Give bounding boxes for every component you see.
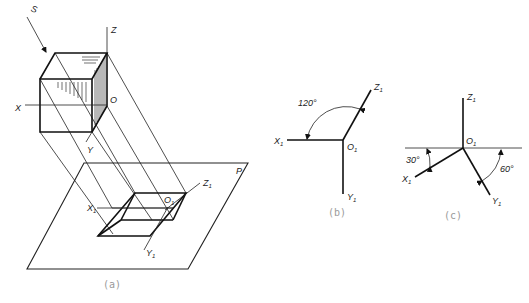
label-z: Z [110, 25, 117, 35]
panel-a: S Z X Y O X1 O1 Z1 Y1 P (a) [14, 4, 248, 290]
caption-b: (b) [328, 207, 346, 218]
axis-z1 [343, 90, 371, 140]
label-angle-60: 60° [500, 164, 514, 174]
label-x1: X1 [273, 136, 283, 147]
projection-plane-p [27, 163, 248, 269]
label-y1: Y1 [347, 192, 356, 203]
label-angle-30: 30° [406, 155, 420, 165]
projection-rays [40, 53, 186, 234]
label-z1: Z1 [202, 178, 212, 189]
caption-a: (a) [103, 279, 121, 290]
axis-y1 [463, 148, 490, 195]
label-y: Y [87, 145, 94, 155]
caption-c: (c) [444, 210, 462, 221]
label-o1: O1 [466, 136, 476, 147]
angle-arc-30 [427, 149, 430, 167]
label-x: X [14, 103, 22, 113]
projection-direction-arrow [27, 17, 46, 52]
cube [40, 53, 107, 132]
label-x1: X1 [401, 174, 411, 185]
panel-b: 120° X1 O1 Z1 Y1 (b) [273, 82, 383, 218]
label-y1: Y1 [492, 196, 501, 207]
label-x1: X1 [86, 203, 96, 214]
label-plane-p: P [236, 166, 242, 176]
angle-arc-60 [482, 150, 501, 181]
label-z1: Z1 [466, 92, 476, 103]
label-s: S [30, 4, 39, 15]
panel-c: 30° 60° X1 O1 Z1 Y1 (c) [401, 92, 522, 221]
projection-diagram: S Z X Y O X1 O1 Z1 Y1 P (a) 120° X1 O1 Z… [0, 0, 529, 303]
label-o1: O1 [164, 195, 174, 206]
axis-y [86, 132, 92, 142]
label-o1: O1 [347, 142, 357, 153]
axis-x1 [415, 148, 463, 177]
label-o: O [110, 95, 117, 105]
label-z1: Z1 [373, 82, 383, 93]
label-angle-120: 120° [298, 98, 317, 108]
label-y1: Y1 [146, 248, 155, 259]
